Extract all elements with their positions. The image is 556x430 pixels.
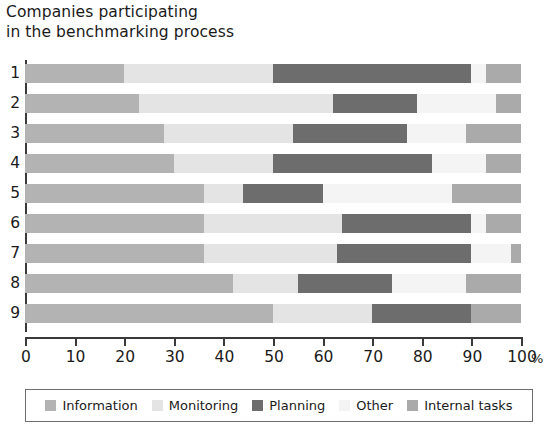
bar-segment bbox=[471, 304, 521, 323]
bar-segment bbox=[432, 154, 487, 173]
bar-row: 3 bbox=[0, 120, 556, 150]
bar-segment bbox=[273, 154, 432, 173]
bar-segment bbox=[486, 214, 521, 233]
x-axis-tick bbox=[75, 337, 77, 346]
x-axis-tick-label: 80 bbox=[413, 348, 433, 366]
x-axis-tick-label: 40 bbox=[215, 348, 235, 366]
bar-segment bbox=[164, 124, 293, 143]
x-axis-tick-label: 0 bbox=[21, 348, 31, 366]
x-axis-tick-label: 60 bbox=[314, 348, 334, 366]
bar-segment bbox=[25, 304, 273, 323]
bar-segment bbox=[337, 244, 471, 263]
bar-row-label: 4 bbox=[2, 153, 20, 173]
bar-row: 8 bbox=[0, 270, 556, 300]
x-axis-tick bbox=[372, 337, 374, 346]
bar-segment bbox=[25, 64, 124, 83]
bar-segment bbox=[417, 94, 496, 113]
bar-segment bbox=[233, 274, 297, 293]
page-title-line1: Companies participating bbox=[6, 3, 198, 21]
bar-segment bbox=[298, 274, 392, 293]
bar-segment bbox=[204, 184, 244, 203]
legend-swatch bbox=[45, 400, 56, 411]
bar-segment bbox=[124, 64, 273, 83]
bar-segment bbox=[25, 184, 204, 203]
legend-swatch bbox=[152, 400, 163, 411]
bar-row: 5 bbox=[0, 180, 556, 210]
x-axis-tick-label: 90 bbox=[463, 348, 483, 366]
bar-segment bbox=[407, 124, 467, 143]
legend-item: Monitoring bbox=[152, 398, 239, 414]
stacked-bar bbox=[25, 154, 521, 173]
x-axis-tick bbox=[521, 337, 523, 346]
x-axis-tick bbox=[471, 337, 473, 346]
x-axis-unit: % bbox=[531, 350, 543, 368]
bar-segment bbox=[273, 64, 471, 83]
page-title-line2: in the benchmarking process bbox=[6, 23, 234, 41]
bar-row: 7 bbox=[0, 240, 556, 270]
bar-segment bbox=[25, 154, 174, 173]
x-axis-tick bbox=[273, 337, 275, 346]
bar-segment bbox=[471, 244, 511, 263]
x-axis-tick bbox=[223, 337, 225, 346]
bar-row: 4 bbox=[0, 150, 556, 180]
bar-row: 1 bbox=[0, 60, 556, 90]
bar-segment bbox=[25, 94, 139, 113]
stacked-bar bbox=[25, 244, 521, 263]
bar-segment bbox=[139, 94, 332, 113]
bar-row-label: 8 bbox=[2, 273, 20, 293]
x-axis-tick-label: 10 bbox=[66, 348, 86, 366]
bar-segment bbox=[25, 244, 204, 263]
bar-segment bbox=[333, 94, 417, 113]
legend-item: Planning bbox=[252, 398, 325, 414]
bar-row-label: 3 bbox=[2, 123, 20, 143]
legend-label: Planning bbox=[269, 398, 325, 414]
bar-segment bbox=[486, 64, 521, 83]
x-axis-tick bbox=[25, 337, 27, 346]
bar-segment bbox=[243, 184, 322, 203]
stacked-bar bbox=[25, 124, 521, 143]
chart-page: Companies participating in the benchmark… bbox=[0, 0, 556, 430]
x-axis-tick bbox=[422, 337, 424, 346]
bar-segment bbox=[466, 274, 521, 293]
bar-segment bbox=[511, 244, 521, 263]
bar-segment bbox=[342, 214, 471, 233]
legend-swatch bbox=[407, 400, 418, 411]
legend-item: Other bbox=[339, 398, 393, 414]
bar-segment bbox=[452, 184, 521, 203]
bar-segment bbox=[486, 154, 521, 173]
bar-segment bbox=[471, 64, 486, 83]
bar-row-label: 2 bbox=[2, 93, 20, 113]
bar-rows: 123456789 bbox=[0, 60, 556, 330]
stacked-bar bbox=[25, 214, 521, 233]
bar-segment bbox=[25, 274, 233, 293]
bar-segment bbox=[293, 124, 407, 143]
bar-segment bbox=[25, 214, 204, 233]
x-axis-tick-label: 30 bbox=[165, 348, 185, 366]
legend-label: Internal tasks bbox=[424, 398, 512, 414]
bar-row-label: 6 bbox=[2, 213, 20, 233]
bar-row-label: 9 bbox=[2, 303, 20, 323]
bar-segment bbox=[466, 124, 521, 143]
x-axis-tick bbox=[323, 337, 325, 346]
bar-segment bbox=[25, 124, 164, 143]
x-axis-tick-label: 20 bbox=[115, 348, 135, 366]
legend-label: Monitoring bbox=[169, 398, 239, 414]
bar-segment bbox=[273, 304, 372, 323]
legend-item: Information bbox=[45, 398, 137, 414]
stacked-bar bbox=[25, 64, 521, 83]
bar-segment bbox=[496, 94, 521, 113]
legend-swatch bbox=[339, 400, 350, 411]
stacked-bar bbox=[25, 274, 521, 293]
bar-row-label: 5 bbox=[2, 183, 20, 203]
legend: InformationMonitoringPlanningOtherIntern… bbox=[25, 389, 533, 422]
legend-label: Information bbox=[62, 398, 137, 414]
bar-segment bbox=[372, 304, 471, 323]
x-axis-tick bbox=[174, 337, 176, 346]
bar-row-label: 7 bbox=[2, 243, 20, 263]
bar-segment bbox=[392, 274, 466, 293]
x-axis-tick bbox=[124, 337, 126, 346]
bar-segment bbox=[471, 214, 486, 233]
x-axis: 0102030405060708090100 % bbox=[0, 337, 556, 377]
bar-row-label: 1 bbox=[2, 63, 20, 83]
x-axis-tick-label: 70 bbox=[363, 348, 383, 366]
